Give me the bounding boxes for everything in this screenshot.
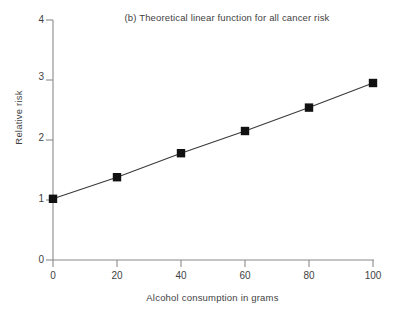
chart-figure: (b) Theoretical linear function for all …	[0, 0, 398, 319]
data-point-marker	[177, 149, 185, 157]
data-line	[53, 83, 373, 199]
x-tick-marks	[53, 260, 373, 267]
data-point-marker	[241, 127, 249, 135]
data-point-marker	[305, 103, 313, 111]
plot-area	[0, 0, 398, 319]
data-point-marker	[113, 173, 121, 181]
data-point-marker	[49, 195, 57, 203]
y-tick-marks	[46, 20, 53, 260]
data-point-marker	[369, 79, 377, 87]
data-markers	[49, 79, 377, 203]
